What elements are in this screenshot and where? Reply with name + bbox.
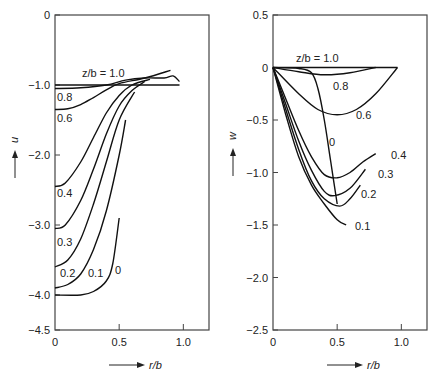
y-tick-label: −0.5 xyxy=(246,114,268,126)
y-tick-label: −4.5 xyxy=(28,324,50,336)
arrowhead-icon xyxy=(230,148,236,156)
y-tick-label: −1.0 xyxy=(28,79,50,91)
y-tick-label: 0 xyxy=(262,62,268,74)
curve-z-b-0.3 xyxy=(55,82,145,229)
y-tick-label: −2.0 xyxy=(28,149,50,161)
curve-z-b-0.8 xyxy=(273,68,376,75)
x-tick-label: 0.5 xyxy=(330,336,345,348)
y-tick-label: 0 xyxy=(44,9,50,21)
u-velocity-chart: 0−1.0−2.0−3.0−4.0−4.500.51.0r/buz/b = 1.… xyxy=(8,9,209,371)
x-tick-label: 0 xyxy=(52,336,58,348)
x-tick-label: 0 xyxy=(270,336,276,348)
curve-label: 0.8 xyxy=(333,80,348,92)
curve-label: 0.1 xyxy=(88,267,103,279)
x-axis-label: r/b xyxy=(367,359,380,371)
curve-label: 0 xyxy=(329,136,335,148)
curve-label: 0.6 xyxy=(356,109,371,121)
curve-label: 0.2 xyxy=(60,267,75,279)
curve-label: 0.3 xyxy=(378,168,393,180)
arrowhead-icon xyxy=(12,150,18,158)
x-axis-label: r/b xyxy=(149,359,162,371)
arrowhead-icon xyxy=(355,362,363,368)
y-tick-label: −2.5 xyxy=(246,324,268,336)
x-tick-label: 1.0 xyxy=(394,336,409,348)
y-axis-label: w xyxy=(226,131,238,140)
x-tick-label: 0.5 xyxy=(112,336,127,348)
curve-label: z/b = 1.0 xyxy=(82,67,125,79)
curve-label: 0.1 xyxy=(355,220,370,232)
y-tick-label: −1.5 xyxy=(246,219,268,231)
curve-label: 0.4 xyxy=(391,149,406,161)
y-tick-label: −4.0 xyxy=(28,289,50,301)
y-axis-label: u xyxy=(8,137,20,143)
plot-frame xyxy=(55,15,209,330)
curve-z-b-0.3 xyxy=(273,68,365,196)
y-tick-label: −2.0 xyxy=(246,272,268,284)
curve-z-b-0 xyxy=(273,68,337,205)
figure: 0−1.0−2.0−3.0−4.0−4.500.51.0r/buz/b = 1.… xyxy=(0,0,436,373)
curve-z-b-0 xyxy=(55,218,119,295)
y-tick-label: 0.5 xyxy=(253,9,268,21)
curve-label: z/b = 1.0 xyxy=(296,52,339,64)
curve-label: 0.4 xyxy=(57,187,72,199)
y-tick-label: −3.0 xyxy=(28,219,50,231)
w-velocity-chart: 0.50−0.5−1.0−1.5−2.0−2.500.51.0r/bwz/b =… xyxy=(226,9,427,371)
x-tick-label: 1.0 xyxy=(176,336,191,348)
chart-canvas: 0−1.0−2.0−3.0−4.0−4.500.51.0r/buz/b = 1.… xyxy=(0,0,436,373)
curve-label: 0 xyxy=(115,264,121,276)
arrowhead-icon xyxy=(137,362,145,368)
curve-label: 0.8 xyxy=(57,91,72,103)
curve-label: 0.3 xyxy=(57,236,72,248)
curve-label: 0.2 xyxy=(361,188,376,200)
y-tick-label: −1.0 xyxy=(246,167,268,179)
curve-label: 0.6 xyxy=(57,112,72,124)
